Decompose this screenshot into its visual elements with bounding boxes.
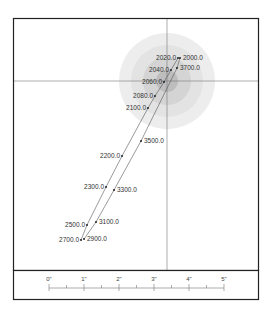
depth-label: 2100.0 — [126, 104, 146, 111]
scale-label: 0" — [46, 276, 51, 282]
survey-point — [80, 239, 82, 241]
depth-label: 3700.0 — [180, 64, 200, 71]
scale-label: 3" — [151, 276, 156, 282]
scale-label: 4" — [186, 276, 191, 282]
scale-label: 5" — [221, 276, 226, 282]
depth-label: 3100.0 — [99, 218, 119, 225]
survey-point — [177, 57, 179, 59]
well-plot-canvas: 2020.02040.02060.02080.02100.02200.02300… — [0, 0, 271, 310]
depth-label: 3300.0 — [117, 186, 137, 193]
survey-point — [163, 81, 165, 83]
scale-frame — [14, 271, 259, 300]
depth-label: 2020.0 — [156, 54, 176, 61]
survey-point — [170, 69, 172, 71]
survey-point — [176, 67, 178, 69]
depth-label: 2080.0 — [133, 92, 153, 99]
survey-point — [147, 107, 149, 109]
survey-point — [121, 155, 123, 157]
depth-label: 2040.0 — [149, 66, 169, 73]
depth-label: 2200.0 — [100, 152, 120, 159]
depth-label: 2900.0 — [87, 235, 107, 242]
depth-label: 2300.0 — [84, 183, 104, 190]
depth-label: 3500.0 — [144, 137, 164, 144]
depth-label: 2000.0 — [183, 54, 203, 61]
survey-point — [140, 140, 142, 142]
survey-point — [154, 95, 156, 97]
survey-point — [83, 238, 85, 240]
depth-label: 2500.0 — [65, 221, 85, 228]
depth-label: 2060.0 — [142, 78, 162, 85]
survey-point — [179, 57, 181, 59]
scale-label: 1" — [81, 276, 86, 282]
depth-label: 2700.0 — [59, 236, 79, 243]
survey-point — [95, 221, 97, 223]
survey-point — [105, 186, 107, 188]
scale-label: 2" — [116, 276, 121, 282]
survey-point — [113, 189, 115, 191]
survey-point — [86, 224, 88, 226]
